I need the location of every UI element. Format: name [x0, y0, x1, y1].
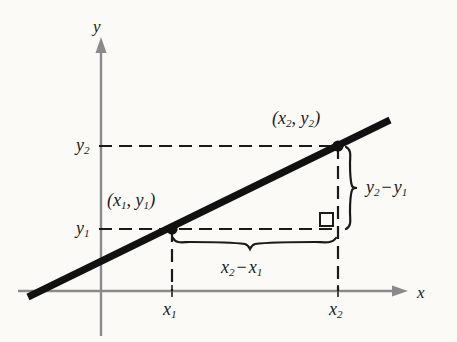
- rise-first-sub: 2: [374, 186, 380, 198]
- x-tick-base-x2: x: [329, 299, 337, 319]
- run-second-sub: 1: [257, 266, 263, 278]
- point-1-label: (x1, y1): [107, 191, 155, 209]
- run-first: x: [221, 257, 229, 277]
- run-brace-path: [173, 238, 336, 249]
- point-2-y: y: [301, 108, 309, 128]
- point-1-dot: [166, 223, 177, 234]
- point-1-comma: ,: [127, 190, 132, 210]
- y-tick-base-y1: y: [76, 218, 84, 238]
- x-axis-label: x: [417, 284, 425, 301]
- rise-brace-path: [346, 147, 357, 229]
- point-2-x: x: [278, 108, 286, 128]
- y-tick-base-y2: y: [76, 135, 84, 155]
- point-2-comma: ,: [292, 108, 297, 128]
- x-tick-label-x2: x2: [329, 300, 343, 318]
- rise-second: y: [394, 177, 402, 197]
- diagram-canvas: [0, 0, 457, 342]
- y-tick-label-y2: y2: [76, 136, 90, 154]
- y-axis-label: y: [93, 18, 101, 35]
- point-2-x-sub: 2: [286, 117, 292, 129]
- run-label: x2−x1: [221, 258, 262, 276]
- point-2-y-sub: 2: [309, 117, 315, 129]
- point-2-dot: [332, 140, 343, 151]
- y-tick-label-y1: y1: [76, 219, 90, 237]
- slope-diagram: y x y2 y1 x1 x2 (x1, y1) (x2, y2) y2−y1 …: [0, 0, 457, 342]
- point-1-close-paren: ): [149, 190, 155, 210]
- point-1-y-sub: 1: [144, 199, 150, 211]
- rise-second-sub: 1: [402, 186, 408, 198]
- point-1-x: x: [113, 190, 121, 210]
- rise-first: y: [366, 177, 374, 197]
- rise-operator: −: [380, 177, 394, 197]
- x-tick-sub-x1: 1: [171, 308, 177, 320]
- rise-label: y2−y1: [366, 178, 407, 196]
- point-1-x-sub: 1: [121, 199, 127, 211]
- point-2-close-paren: ): [314, 108, 320, 128]
- right-angle-square: [320, 213, 333, 226]
- run-operator: −: [235, 257, 249, 277]
- x-axis: [18, 286, 408, 297]
- point-1-y: y: [136, 190, 144, 210]
- x-tick-label-x1: x1: [163, 300, 177, 318]
- run-first-sub: 2: [229, 266, 235, 278]
- y-tick-sub-y2: 2: [84, 144, 90, 156]
- x-tick-sub-x2: 2: [337, 308, 343, 320]
- point-2-label: (x2, y2): [272, 109, 320, 127]
- x-tick-base-x1: x: [163, 299, 171, 319]
- y-tick-sub-y1: 1: [84, 227, 90, 239]
- run-second: x: [249, 257, 257, 277]
